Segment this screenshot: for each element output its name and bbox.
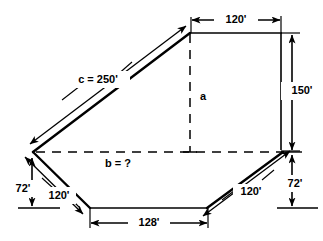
dimension-label-right-height: 150'	[292, 84, 313, 96]
dimension-label-hypotenuse: c = 250'	[78, 73, 118, 85]
dimension-right-drop: 72'	[277, 152, 318, 208]
outline-edge-hypotenuse	[33, 33, 190, 152]
dimension-top-width: 120'	[191, 12, 281, 33]
leader-hypotenuse-left	[62, 86, 80, 100]
geometry-diagram-canvas: 120' 150' c = 250' a b = ?	[0, 0, 323, 241]
dimension-label-left-slope: 120'	[49, 189, 70, 201]
dimension-label-b: b = ?	[105, 157, 131, 169]
figure-svg: 120' 150' c = 250' a b = ?	[0, 0, 323, 241]
dimension-horizontal-leg: b = ?	[96, 155, 140, 172]
leader-right-slope-upper	[262, 170, 274, 180]
dimension-right-height: 150'	[281, 33, 321, 151]
dimension-label-right-drop: 72'	[288, 177, 303, 189]
dimension-label-a: a	[200, 90, 207, 102]
dimension-hypotenuse: c = 250'	[30, 26, 186, 144]
dimension-label-top-width: 120'	[226, 13, 247, 25]
dimension-vertical-leg: a	[200, 90, 207, 102]
dimension-label-bottom-width: 128'	[139, 216, 160, 228]
dim-line-right-slope	[203, 151, 290, 216]
construction-lines	[36, 34, 282, 152]
dimension-label-left-drop: 72'	[16, 182, 31, 194]
lot-outline	[33, 33, 283, 208]
dimension-bottom-width: 128'	[90, 208, 208, 231]
dimension-label-right-slope: 120'	[241, 185, 262, 197]
dimension-right-slope: 120'	[203, 151, 290, 216]
